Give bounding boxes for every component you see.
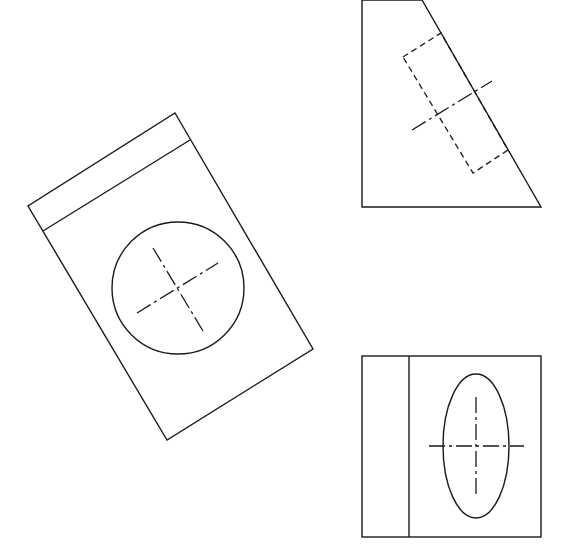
top-right-view <box>362 0 541 207</box>
drawing-canvas <box>0 0 568 547</box>
bottom-right-view <box>362 356 541 537</box>
technical-drawing <box>0 0 568 547</box>
rotated-view-centerline-b <box>137 263 218 313</box>
top-right-view-outline <box>362 0 541 207</box>
top-right-view-centerline <box>412 81 492 130</box>
rotated-view <box>28 113 313 440</box>
rotated-view-centerline-a <box>153 248 203 331</box>
rotated-view-inner-edge <box>43 140 190 231</box>
top-right-view-hidden-hole <box>403 33 508 173</box>
